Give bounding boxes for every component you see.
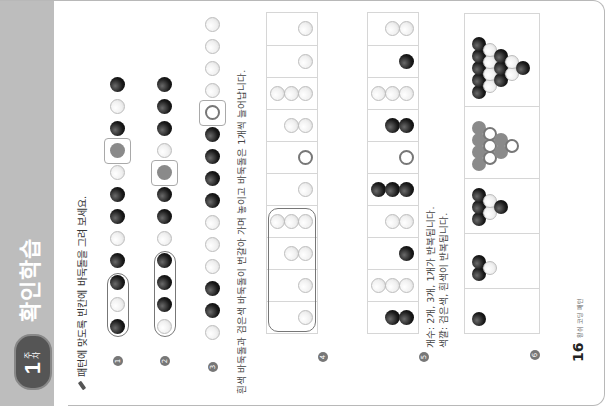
black-stone [157, 188, 172, 203]
grid-cell [267, 13, 317, 45]
instruction-text: 패턴에 맞도록 빈칸에 바둑돌을 그려 보세요. [74, 196, 89, 377]
stone-slot [157, 118, 172, 140]
stone-stack [400, 150, 414, 165]
week-number: 1 [20, 362, 46, 374]
page-viewport: 1 주차 확인학습 패턴에 맞도록 빈칸에 바둑돌을 그려 보세요. 흰색 바둑… [0, 0, 616, 414]
answer-box [104, 138, 131, 164]
black-stone [110, 78, 125, 93]
black-stone [399, 118, 414, 133]
stone-slot [205, 14, 220, 36]
stone-stack [400, 54, 414, 69]
stone-slot [205, 146, 220, 168]
stone-triangle [469, 237, 535, 286]
outline-stone [399, 150, 414, 165]
black-stone [205, 150, 220, 165]
week-badge: 1 주차 [14, 334, 52, 390]
white-stone [284, 118, 299, 133]
stone-stack [285, 118, 313, 133]
black-stone [385, 118, 400, 133]
stone-slot [110, 74, 125, 96]
white-stone [270, 86, 285, 101]
grid-cell [368, 205, 418, 237]
grid-cell[interactable] [368, 141, 418, 173]
white-stone [110, 100, 125, 115]
stone-triangle [469, 182, 535, 231]
white-stone [385, 22, 400, 37]
white-stone [298, 182, 313, 197]
white-stone [157, 144, 172, 159]
stone-stack [299, 22, 313, 37]
black-stone [110, 254, 125, 269]
stone-slot [110, 250, 125, 272]
figure-cell [465, 14, 539, 106]
stone-stack [400, 246, 414, 261]
black-stone [205, 282, 220, 297]
grid-cell [267, 173, 317, 205]
stone-slot [157, 96, 172, 118]
banner-spacer [54, 1, 68, 406]
stone-slot [205, 168, 220, 190]
problem-number: 1 [113, 356, 123, 366]
black-stone [205, 304, 220, 319]
grid-cell [368, 109, 418, 141]
white-stone [385, 86, 400, 101]
stone-triangle [469, 110, 535, 176]
white-stone [385, 278, 400, 293]
white-stone [157, 232, 172, 247]
grid-cell [267, 77, 317, 109]
black-stone [516, 61, 530, 75]
figure-cell[interactable] [465, 106, 539, 178]
stone-stack [271, 86, 313, 101]
black-stone [494, 201, 508, 215]
answer-slot[interactable] [205, 102, 220, 124]
white-stone [205, 62, 220, 77]
stone-slot [157, 206, 172, 228]
grid-cell [368, 173, 418, 205]
black-stone [205, 172, 220, 187]
week-label: 주차 [25, 350, 41, 359]
grid-cell [267, 109, 317, 141]
stone-slot [157, 74, 172, 96]
grid-cell[interactable] [267, 141, 317, 173]
grid-cell [368, 77, 418, 109]
figure-cell [465, 178, 539, 233]
grid-cell [368, 45, 418, 77]
stone-stack [386, 310, 414, 325]
black-stone [205, 194, 220, 209]
pattern-group-outline [107, 273, 129, 337]
answer-slot[interactable] [110, 140, 125, 162]
answer-slot[interactable] [157, 162, 172, 184]
stone-slot [110, 228, 125, 250]
black-stone [399, 246, 414, 261]
white-stone [284, 86, 299, 101]
stone-stack [372, 182, 414, 197]
stone-row [205, 14, 220, 344]
stone-slot [157, 184, 172, 206]
black-stone [157, 78, 172, 93]
stone-stack [299, 54, 313, 69]
stone-grid [367, 12, 419, 334]
white-stone [205, 326, 220, 341]
problem-5-note-count: 개수: 2개, 3개, 1개가 반복됩니다. [424, 207, 437, 348]
stone-stack [386, 214, 414, 229]
figure-grid [464, 13, 540, 334]
stone-slot [110, 206, 125, 228]
white-stone [205, 238, 220, 253]
white-stone [298, 118, 313, 133]
white-stone [371, 86, 386, 101]
problem-number: 5 [419, 352, 429, 362]
white-stone [298, 22, 313, 37]
stone-stack [299, 150, 313, 165]
figure-cell [465, 288, 539, 333]
black-stone [399, 310, 414, 325]
grid-cell [267, 45, 317, 77]
stone-slot [205, 322, 220, 344]
stone-slot [110, 96, 125, 118]
white-stone [371, 278, 386, 293]
white-stone [205, 18, 220, 33]
workbook-page: 1 주차 확인학습 패턴에 맞도록 빈칸에 바둑돌을 그려 보세요. 흰색 바둑… [0, 0, 616, 414]
problem-number: 6 [530, 350, 540, 360]
black-stone [157, 122, 172, 137]
white-stone [205, 84, 220, 99]
stone-stack [299, 182, 313, 197]
